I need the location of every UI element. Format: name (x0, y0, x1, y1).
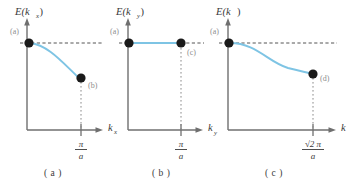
panel-a-caption: ( a ) (44, 168, 62, 178)
panel-a-ylabel-close: ) (40, 6, 44, 18)
panel-b-ylabel-close: ) (141, 6, 145, 18)
panel-b-tick-label: π a (175, 139, 187, 161)
panel-a-point-a-label: (a) (10, 27, 19, 36)
panel-c-y-axis-arrow (225, 18, 231, 26)
panel-a-point-a (24, 38, 33, 47)
panel-c-point-a-label: (a) (210, 27, 219, 36)
panel-c-tick-label: √2 π a (302, 139, 324, 161)
panel-b-xlabel-text: k (208, 122, 213, 133)
panel-c-x-axis-label: k (341, 122, 346, 133)
panel-c-y-axis-label: E(k ) (215, 6, 241, 18)
panel-c-curve (230, 43, 311, 74)
panel-a-y-axis-arrow (24, 18, 30, 26)
panel-a-ylabel-subscript: x (35, 12, 39, 19)
panel-c-point-d-label: (d) (320, 74, 330, 83)
panel-a-tick-numerator: π (79, 139, 84, 149)
panel-c-ylabel-close: ) (237, 6, 241, 18)
panel-b: (a) (c) E(k y ) k y π a (110, 6, 218, 161)
panel-a-xlabel-text: k (108, 122, 113, 133)
panel-c-point-a (224, 38, 233, 47)
panel-b-point-c-label: (c) (187, 48, 196, 57)
panel-b-xlabel-subscript: y (213, 129, 218, 136)
panel-a-curve (30, 43, 78, 77)
panel-b-tick-numerator: π (179, 139, 184, 149)
panel-a-ylabel-text: E(k (14, 6, 30, 18)
figure-canvas: (a) (b) E(k x ) k x π a (0, 0, 361, 192)
panel-b-y-axis-label: E(k y ) (115, 6, 145, 19)
panel-b-point-a (124, 38, 133, 47)
panel-c-tick-denominator: a (311, 151, 316, 161)
panel-a: (a) (b) E(k x ) k x π a (10, 6, 117, 161)
panel-a-tick-denominator: a (79, 151, 84, 161)
panel-c-x-axis-arrow (329, 127, 337, 133)
panel-a-x-axis-arrow (96, 127, 104, 133)
panel-b-point-a-label: (a) (110, 27, 119, 36)
panel-b-ylabel-text: E(k (115, 6, 131, 18)
panel-a-point-b (76, 73, 85, 82)
panel-c-xlabel-text: k (341, 122, 346, 133)
panel-b-tick-denominator: a (179, 151, 184, 161)
panel-a-point-b-label: (b) (88, 81, 98, 90)
panel-c-caption: ( c ) (265, 168, 283, 178)
panel-b-y-axis-arrow (125, 18, 131, 26)
panel-b-x-axis-label: k y (208, 122, 218, 136)
panel-a-xlabel-subscript: x (113, 128, 117, 135)
panel-b-point-c (176, 38, 185, 47)
panel-a-x-axis-label: k x (108, 122, 117, 135)
panel-b-x-axis-arrow (196, 127, 204, 133)
panel-c-tick-numerator: √2 π (305, 139, 322, 149)
panel-c-ylabel-text: E(k (215, 6, 231, 18)
panel-a-tick-label: π a (75, 139, 87, 161)
panel-c: (a) (d) E(k ) k √2 π a (210, 6, 346, 161)
panel-a-y-axis-label: E(k x ) (14, 6, 44, 19)
panel-b-caption: ( b ) (152, 168, 170, 178)
panel-c-point-d (308, 69, 317, 78)
band-structure-figure: (a) (b) E(k x ) k x π a (0, 0, 361, 192)
